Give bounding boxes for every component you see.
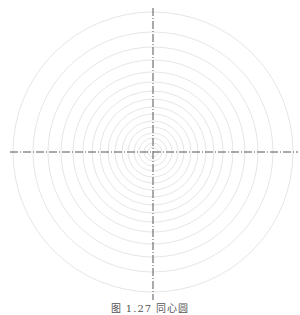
figure-caption: 图 1.27 同心圆	[0, 300, 300, 314]
